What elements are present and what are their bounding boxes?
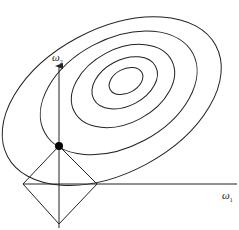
- y-axis-label-text: ω: [52, 51, 60, 63]
- contour-1: [104, 62, 147, 100]
- solution-point: [55, 142, 63, 150]
- x-axis-label-text: ω: [222, 189, 230, 201]
- contour-5: [0, 0, 239, 220]
- x-axis-label: ω1: [222, 190, 233, 203]
- x-axis-label-sub: 1: [230, 197, 233, 203]
- y-axis-label: ω2: [52, 52, 63, 65]
- y-axis-label-sub: 2: [60, 59, 63, 65]
- contour-2: [83, 46, 166, 119]
- diagram-canvas: [0, 0, 239, 230]
- contour-3: [57, 28, 189, 145]
- contour-4: [19, 6, 218, 180]
- loss-contours: [0, 0, 239, 220]
